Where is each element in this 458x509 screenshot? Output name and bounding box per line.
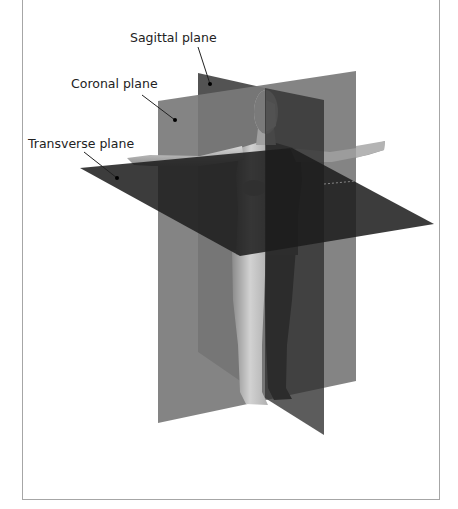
transverse-plane (80, 148, 434, 256)
transverse-plane-label: Transverse plane (28, 137, 134, 151)
sagittal-plane-front (265, 88, 324, 435)
sagittal-plane-label: Sagittal plane (130, 31, 217, 45)
sagittal-leader-dot (208, 82, 212, 86)
right-hand (356, 141, 385, 158)
coronal-plane-label: Coronal plane (71, 77, 158, 91)
coronal-leader-dot (173, 118, 177, 122)
planes-diagram (0, 0, 458, 509)
transverse-leader-dot (115, 176, 119, 180)
